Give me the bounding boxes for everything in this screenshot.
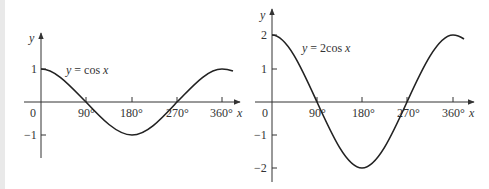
y-tick-label-1: 1 (261, 62, 267, 76)
x-tick-label-360: 360° (442, 106, 465, 120)
origin-label: 0 (30, 106, 36, 120)
x-ticks (317, 97, 453, 102)
y-tick-label-2: 2 (261, 28, 267, 42)
x-axis-label: x (468, 106, 475, 120)
equation-label: y = cos x (65, 63, 109, 77)
y-axis-label: y (259, 8, 266, 22)
x-tick-label-180: 180° (120, 106, 143, 120)
y-tick-label-neg1: −1 (24, 128, 37, 142)
x-tick-label-270: 270° (166, 106, 189, 120)
charts-canvas: y x 0 1 −1 90° 180° 270° 360° y = cos x (0, 0, 489, 189)
chart-cos: y x 0 1 −1 90° 180° 270° 360° y = cos x (24, 31, 243, 158)
equation-label: y = 2cos x (301, 41, 351, 55)
x-tick-label-90: 90° (309, 106, 326, 120)
chart-2cos: y x 0 2 1 −1 −2 90° 180° 270° 360° y = 2… (254, 8, 475, 182)
x-ticks (86, 97, 222, 102)
x-tick-label-180: 180° (352, 106, 375, 120)
x-axis-label: x (236, 106, 243, 120)
x-tick-label-360: 360° (210, 106, 233, 120)
y-axis-label: y (28, 31, 35, 45)
y-tick-label-neg1: −1 (254, 128, 267, 142)
y-tick-label-neg2: −2 (254, 161, 267, 175)
y-tick-label-1: 1 (31, 62, 37, 76)
origin-label: 0 (262, 106, 268, 120)
